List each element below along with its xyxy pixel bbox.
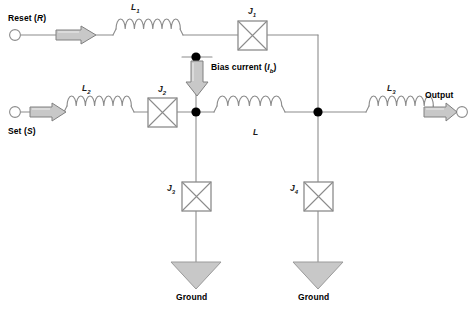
inductor-L1-coil [116, 19, 180, 29]
wire-L-leadin [214, 106, 217, 112]
inductor-L2-coil [67, 96, 131, 106]
inductor-L-label: L [253, 128, 258, 139]
ground-symbol-right [293, 262, 343, 289]
junction-J4-label: J4 [290, 184, 298, 195]
inductor-L1-label: L1 [131, 3, 140, 14]
junction-J1-symbol [238, 21, 267, 50]
wire-L2-leadout [131, 106, 134, 112]
reset-terminal-label: Reset (R) [8, 14, 46, 23]
circuit-schematic-svg [0, 0, 471, 311]
inductor-L3-label: L3 [387, 84, 396, 95]
inductor-L2-label: L2 [82, 84, 91, 95]
reset-input-arrow-icon [56, 26, 96, 44]
reset-terminal-circle [10, 30, 21, 41]
set-terminal-circle [10, 107, 21, 118]
ground-symbol-left [171, 262, 221, 289]
junction-J2-label: J2 [158, 85, 166, 96]
set-terminal-label: Set (S) [8, 127, 36, 136]
ground-left-label: Ground [176, 293, 207, 302]
inductor-L-coil [217, 96, 282, 106]
wire-L-leadout [282, 106, 285, 112]
node-dot-bias-top [191, 52, 200, 61]
ground-right-label: Ground [298, 293, 329, 302]
node-dot-left-center [191, 107, 200, 116]
output-terminal-circle [457, 107, 468, 118]
node-dot-right-center [313, 107, 322, 116]
output-terminal-label: Output [425, 91, 453, 100]
junction-J2-symbol [148, 98, 177, 127]
bias-current-arrow-icon [186, 61, 208, 96]
circuit-diagram: Reset (R) Set (S) Output Bias current (I… [0, 0, 471, 311]
wire-L1-leadin [113, 29, 116, 35]
junction-J3-symbol [182, 182, 211, 211]
output-arrow-icon [424, 103, 457, 121]
wire-L3-leadin [366, 106, 369, 112]
wire-L1-leadout [180, 29, 183, 35]
junction-J3-label: J3 [167, 184, 175, 195]
bias-current-label: Bias current (Ib) [211, 63, 277, 74]
junction-J1-label: J1 [248, 7, 256, 18]
set-input-arrow-icon [30, 103, 66, 121]
junction-J4-symbol [304, 182, 333, 211]
inductor-L3-coil [369, 96, 433, 106]
